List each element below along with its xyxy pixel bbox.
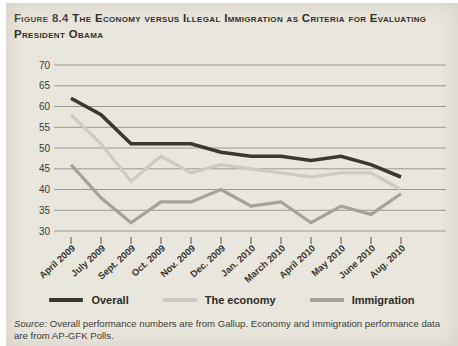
figure-title-text: The Economy versus Illegal Immigration a… bbox=[14, 12, 426, 40]
chart-legend: Overall The economy Immigration bbox=[6, 294, 458, 306]
svg-text:65: 65 bbox=[39, 80, 51, 91]
legend-item-overall: Overall bbox=[49, 294, 128, 306]
figure-page: Figure 8.4 The Economy versus Illegal Im… bbox=[6, 3, 458, 346]
svg-text:35: 35 bbox=[39, 205, 51, 216]
legend-label-economy: The economy bbox=[205, 294, 276, 306]
svg-text:40: 40 bbox=[39, 184, 51, 195]
legend-swatch-overall bbox=[49, 298, 83, 302]
legend-label-immigration: Immigration bbox=[352, 294, 415, 306]
svg-text:30: 30 bbox=[39, 226, 51, 237]
svg-text:50: 50 bbox=[39, 143, 51, 154]
svg-text:70: 70 bbox=[39, 60, 51, 71]
figure-title: Figure 8.4 The Economy versus Illegal Im… bbox=[14, 10, 438, 42]
svg-text:45: 45 bbox=[39, 163, 51, 174]
legend-item-immigration: Immigration bbox=[310, 294, 415, 306]
source-prefix: Source: bbox=[14, 318, 47, 329]
legend-swatch-economy bbox=[163, 298, 197, 302]
legend-label-overall: Overall bbox=[91, 294, 128, 306]
source-text: Overall performance numbers are from Gal… bbox=[14, 318, 440, 341]
svg-text:55: 55 bbox=[39, 122, 51, 133]
legend-swatch-immigration bbox=[310, 298, 344, 302]
svg-text:60: 60 bbox=[39, 101, 51, 112]
source-note: Source: Overall performance numbers are … bbox=[14, 318, 452, 343]
line-chart: 303540455055606570April 2009July 2009Sep… bbox=[6, 57, 458, 297]
legend-item-economy: The economy bbox=[163, 294, 276, 306]
figure-label: Figure 8.4 bbox=[14, 12, 69, 24]
